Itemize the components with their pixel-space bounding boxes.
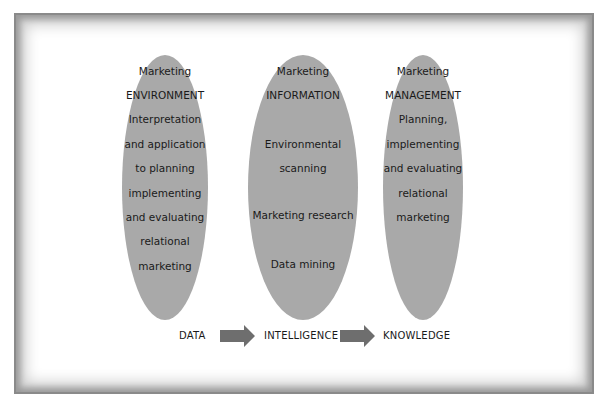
ellipse-line: Marketing <box>122 65 208 77</box>
ellipse-line: Marketing <box>383 65 463 77</box>
right-arrow-icon <box>220 325 256 347</box>
ellipse-line: Data mining <box>248 258 358 270</box>
ellipse-line: Interpretation <box>122 113 208 125</box>
ellipse-line: marketing <box>122 260 208 272</box>
ellipse-line: and evaluating <box>383 162 463 174</box>
ellipse-line: scanning <box>248 162 358 174</box>
flow-stage-data: DATA <box>179 330 206 341</box>
ellipse-line: marketing <box>383 211 463 223</box>
ellipse-marketing-information: Marketing INFORMATION Environmental scan… <box>248 55 358 320</box>
ellipse-line: Planning, <box>383 113 463 125</box>
ellipse-marketing-management: Marketing MANAGEMENT Planning, implement… <box>383 55 463 320</box>
ellipse-heading: ENVIRONMENT <box>122 89 208 101</box>
flow-stage-knowledge: KNOWLEDGE <box>383 330 450 341</box>
right-arrow-icon <box>340 325 376 347</box>
ellipse-line: Marketing research <box>248 209 358 221</box>
ellipse-line: relational <box>383 187 463 199</box>
ellipse-heading: INFORMATION <box>248 89 358 101</box>
ellipse-line: implementing <box>383 138 463 150</box>
ellipse-line: to planning <box>122 162 208 174</box>
ellipse-line: Environmental <box>248 138 358 150</box>
ellipse-heading: MANAGEMENT <box>383 89 463 101</box>
ellipse-line: implementing <box>122 187 208 199</box>
ellipse-line: and evaluating <box>122 211 208 223</box>
ellipse-line: and application <box>122 138 208 150</box>
flow-stage-intelligence: INTELLIGENCE <box>264 330 338 341</box>
ellipse-marketing-environment: Marketing ENVIRONMENT Interpretation and… <box>122 55 208 320</box>
ellipse-line: Marketing <box>248 65 358 77</box>
ellipse-line: relational <box>122 235 208 247</box>
